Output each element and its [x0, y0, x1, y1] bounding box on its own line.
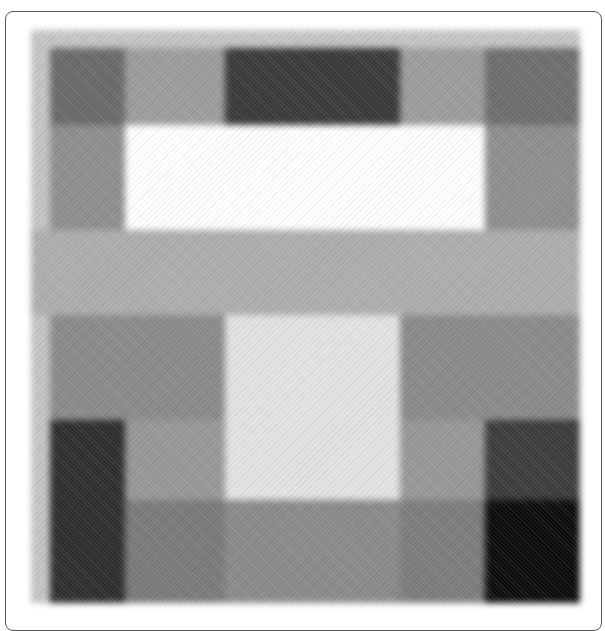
block-lower-center-light: [225, 315, 400, 500]
block-upper-left-gray: [50, 125, 125, 230]
block-base-right-black: [485, 500, 580, 603]
block-base-left-gray: [125, 500, 225, 603]
block-top-right-mid: [400, 48, 485, 125]
grayscale-block-image: [31, 30, 580, 603]
block-upper-right-gray: [485, 125, 580, 230]
block-top-left-mid: [125, 48, 225, 125]
block-bottom-left-black: [50, 420, 125, 603]
block-bottom-right-mid: [400, 420, 485, 500]
block-top-left-dark: [50, 48, 125, 125]
block-base-right-gray: [400, 500, 485, 603]
block-middle-band-light: [31, 230, 580, 315]
block-lower-left-gray: [50, 315, 225, 420]
block-top-right-dark: [485, 48, 580, 125]
block-bottom-left-mid: [125, 420, 225, 500]
block-lower-right-gray: [400, 315, 580, 420]
block-upper-center-white: [125, 125, 485, 230]
block-top-center-dark: [225, 48, 400, 125]
block-bottom-right-dark: [485, 420, 580, 500]
block-base-center-gray: [225, 500, 400, 603]
